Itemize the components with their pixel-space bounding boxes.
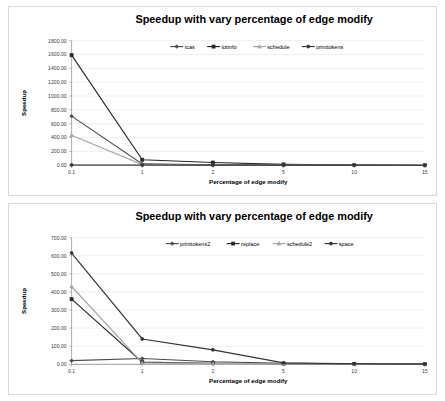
y-tick-label: 800.00	[51, 107, 67, 113]
data-point-marker	[353, 164, 356, 167]
x-tick-label: 2	[211, 169, 214, 175]
legend-label-printtokens2: printtokens2	[180, 241, 210, 247]
legend-item-schedule2[interactable]: schedule2	[273, 241, 313, 247]
y-tick-label: 700.00	[51, 235, 67, 241]
series-line-space	[72, 253, 425, 364]
legend-label-totinfo: totinfo	[221, 44, 236, 50]
chart-title: Speedup with vary percentage of edge mod…	[135, 13, 373, 25]
y-tick-label: 1400.00	[48, 65, 67, 71]
legend-label-schedule2: schedule2	[287, 241, 312, 247]
legend-item-totinfo[interactable]: totinfo	[207, 44, 236, 50]
data-point-marker	[423, 164, 426, 167]
x-tick-label: 0.1	[68, 169, 75, 175]
data-point-marker	[212, 45, 215, 48]
data-point-marker	[70, 163, 73, 166]
x-tick-label: 1	[141, 169, 144, 175]
speedup-chart-top: Speedup with vary percentage of edge mod…	[8, 6, 437, 196]
legend-item-replace[interactable]: replace	[227, 241, 260, 247]
legend-label-space: space	[339, 241, 354, 247]
data-point-marker	[211, 348, 214, 351]
y-axis-title: Speedup	[20, 90, 27, 116]
data-point-marker	[211, 164, 214, 167]
data-point-marker	[70, 298, 73, 301]
y-tick-label: 0.00	[57, 162, 67, 168]
data-point-marker	[282, 164, 285, 167]
chart-legend: tcastotinfoscheduleprinttokens	[170, 44, 343, 50]
legend-item-printtokens2[interactable]: printtokens2	[166, 241, 210, 247]
x-tick-label: 10	[351, 368, 357, 374]
y-tick-label: 400.00	[51, 289, 67, 295]
y-tick-label: 500.00	[51, 271, 67, 277]
series-line-schedule2	[72, 287, 425, 365]
y-tick-label: 0.00	[57, 361, 67, 367]
y-tick-label: 1200.00	[48, 79, 67, 85]
data-point-marker	[70, 54, 73, 57]
speedup-chart-bottom: Speedup with vary percentage of edge mod…	[8, 203, 437, 395]
screenshot-canvas: Speedup with vary percentage of edge mod…	[0, 0, 445, 401]
legend-item-tcas[interactable]: tcas	[170, 44, 195, 50]
data-point-marker	[277, 242, 280, 245]
legend-label-tcas: tcas	[185, 44, 195, 50]
y-tick-label: 1800.00	[48, 38, 67, 44]
data-point-marker	[141, 337, 144, 340]
series-line-schedule	[72, 135, 425, 165]
legend-item-space[interactable]: space	[325, 241, 354, 247]
y-tick-label: 400.00	[51, 134, 67, 140]
y-tick-label: 200.00	[51, 325, 67, 331]
data-point-marker	[141, 158, 144, 161]
chart-legend: printtokens2replaceschedule2space	[166, 241, 354, 247]
data-point-marker	[329, 242, 332, 245]
legend-item-printtokens[interactable]: printtokens	[302, 44, 344, 50]
speedup-chart-bottom-canvas: Speedup with vary percentage of edge mod…	[9, 204, 436, 394]
data-point-marker	[258, 45, 261, 48]
data-point-marker	[282, 361, 285, 364]
data-point-marker	[232, 242, 235, 245]
y-tick-label: 600.00	[51, 121, 67, 127]
x-tick-label: 15	[422, 169, 428, 175]
series-line-replace	[72, 299, 425, 364]
speedup-chart-top-canvas: Speedup with vary percentage of edge mod…	[9, 7, 436, 195]
y-axis-title: Speedup	[20, 288, 27, 314]
legend-label-printtokens: printtokens	[316, 44, 343, 50]
data-point-marker	[70, 252, 73, 255]
x-axis-title: Percentage of edge modify	[209, 178, 288, 185]
data-point-marker	[70, 359, 74, 363]
data-point-marker	[307, 45, 310, 48]
data-point-marker	[70, 285, 73, 288]
legend-label-replace: replace	[241, 241, 259, 247]
data-point-marker	[353, 362, 356, 365]
x-tick-label: 1	[141, 368, 144, 374]
data-point-marker	[175, 45, 179, 49]
x-axis-title: Percentage of edge modify	[209, 377, 288, 384]
data-point-marker	[70, 133, 73, 136]
y-tick-label: 600.00	[51, 253, 67, 259]
legend-item-schedule[interactable]: schedule	[253, 44, 290, 50]
x-tick-label: 0.1	[68, 368, 75, 374]
data-point-marker	[423, 363, 426, 366]
y-tick-label: 1600.00	[48, 51, 67, 57]
y-tick-label: 100.00	[51, 343, 67, 349]
x-tick-label: 15	[422, 368, 428, 374]
data-point-marker	[170, 242, 174, 246]
chart-title: Speedup with vary percentage of edge mod…	[135, 210, 373, 222]
x-tick-label: 5	[282, 169, 285, 175]
y-tick-label: 300.00	[51, 307, 67, 313]
x-tick-label: 2	[211, 368, 214, 374]
y-tick-label: 1000.00	[48, 93, 67, 99]
data-point-marker	[141, 164, 144, 167]
legend-label-schedule: schedule	[267, 44, 289, 50]
x-tick-label: 10	[351, 169, 357, 175]
y-tick-label: 200.00	[51, 148, 67, 154]
x-tick-label: 5	[282, 368, 285, 374]
data-point-marker	[140, 357, 144, 361]
